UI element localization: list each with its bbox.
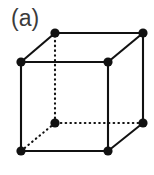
lattice-atom-front-top-right [103,57,112,66]
lattice-atom-front-top-left [16,57,25,66]
cube-edge-layer [21,33,143,151]
lattice-atom-back-bottom-left [50,118,59,127]
cube-edge-diagonal-top-right [108,33,143,62]
panel-label: (a) [11,5,39,31]
lattice-atom-back-bottom-right [138,118,147,127]
cube-edge-diagonal-bottom-right [108,123,143,151]
lattice-atom-back-top-right [138,28,147,37]
lattice-atom-back-top-left [50,28,59,37]
figure-panel: (a) [0,0,154,175]
cube-edge-diagonal-top-left [21,33,55,62]
lattice-atom-front-bottom-right [103,146,112,155]
lattice-atom-front-bottom-left [16,146,25,155]
cube-vertex-layer [16,28,147,155]
cube-edge-diagonal-bottom-left [21,123,55,151]
